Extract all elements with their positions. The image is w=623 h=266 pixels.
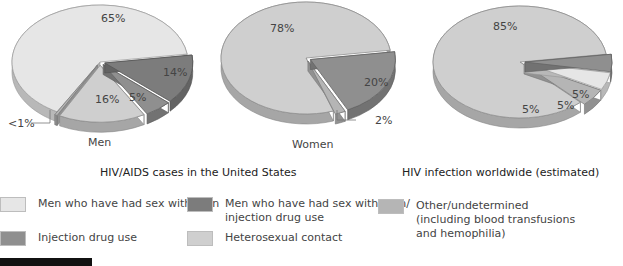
us-group-title: HIV/AIDS cases in the United States — [100, 166, 297, 179]
men-pie-title: Men — [88, 136, 111, 149]
pie-data-label: 16% — [95, 93, 119, 106]
legend-label-idu: Injection drug use — [38, 231, 137, 245]
pie-data-label: <1% — [8, 117, 35, 130]
legend-item-msm-idu: Men who have had sex with men/ injection… — [187, 197, 410, 225]
women-pie-title: Women — [292, 138, 333, 151]
world-group-title: HIV infection worldwide (estimated) — [402, 166, 599, 179]
pie-charts: 65%14%5%16%<1%78%20%2%85%5%5%5% — [0, 0, 623, 150]
legend-swatch-msm-idu — [187, 197, 213, 212]
legend-label-hetero: Heterosexual contact — [225, 231, 342, 245]
legend-label-other: Other/undetermined (including blood tran… — [416, 199, 575, 241]
pie-data-label: 5% — [522, 103, 539, 116]
pie-data-label: 65% — [101, 12, 125, 25]
pie-data-label: 20% — [364, 76, 388, 89]
pie-data-label: 5% — [557, 99, 574, 112]
pie-data-label: 2% — [375, 114, 392, 127]
legend-item-hetero: Heterosexual contact — [187, 231, 342, 246]
legend-swatch-idu — [0, 231, 26, 246]
pie-data-label: 78% — [270, 22, 294, 35]
legend-swatch-other — [378, 199, 404, 214]
pie-data-label: 5% — [572, 88, 589, 101]
legend-item-other: Other/undetermined (including blood tran… — [378, 199, 575, 241]
legend-swatch-msm — [0, 197, 26, 212]
pie-data-label: 14% — [163, 66, 187, 79]
pie-data-label: 85% — [493, 20, 517, 33]
pie-chart-1 — [221, 2, 395, 124]
image-artifact-bar — [0, 258, 92, 266]
pie-data-label: 5% — [129, 91, 146, 104]
legend-item-idu: Injection drug use — [0, 231, 137, 246]
legend-swatch-hetero — [187, 231, 213, 246]
